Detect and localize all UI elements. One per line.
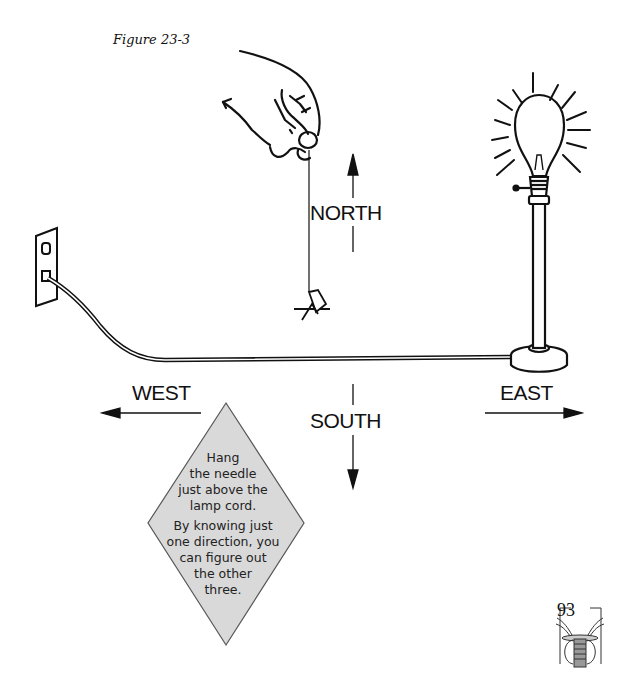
lamp-cord <box>48 278 515 360</box>
wall-outlet-icon <box>36 228 57 306</box>
hand-icon <box>223 51 320 160</box>
lamp-icon <box>511 95 567 372</box>
needle-icon <box>294 290 330 320</box>
north-label: NORTH <box>310 201 382 225</box>
callout-paragraph-1: Hang the needle just above the lamp cord… <box>148 450 298 514</box>
callout-text: Hang the needle just above the lamp cord… <box>148 450 298 602</box>
figure-caption: Figure 23-3 <box>113 32 190 47</box>
south-label: SOUTH <box>310 409 381 433</box>
east-label: EAST <box>500 381 553 405</box>
page-number: 93 <box>557 600 575 621</box>
west-label: WEST <box>132 381 191 405</box>
south-arrow-icon <box>348 384 358 488</box>
callout-paragraph-2: By knowing just one direction, you can f… <box>148 518 298 598</box>
illustration-canvas <box>0 0 635 675</box>
east-arrow-icon <box>485 408 582 418</box>
west-arrow-icon <box>102 408 201 418</box>
